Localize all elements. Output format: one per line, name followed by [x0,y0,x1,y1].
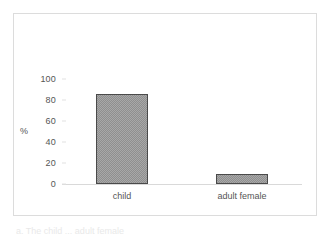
y-tick-label: 40 [46,137,56,147]
x-axis-label: adult female [217,191,266,201]
y-tick-mark [62,142,66,143]
figure-container: % 020406080100 a. The child ... adult fe… [0,0,331,239]
y-tick-label: 80 [46,95,56,105]
plot-area: 020406080100 [62,79,302,184]
y-tick-label: 60 [46,116,56,126]
y-tick-label: 20 [46,158,56,168]
bar-child [96,94,148,184]
caption-fragment: a. The child ... adult female [16,226,316,237]
y-axis-title: % [20,126,28,136]
x-axis-label: child [113,191,132,201]
y-tick-mark [62,184,66,185]
y-tick-label: 100 [40,74,56,84]
y-tick-label: 0 [51,179,56,189]
y-tick-mark [62,100,66,101]
bar-adult-female [216,174,268,185]
y-tick-mark [62,121,66,122]
x-axis-line [62,184,302,185]
y-tick-mark [62,163,66,164]
y-tick-mark [62,79,66,80]
